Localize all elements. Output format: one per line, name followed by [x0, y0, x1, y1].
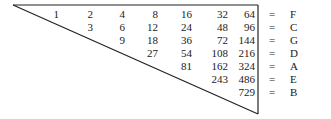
row-label: E [290, 74, 297, 85]
cell-r0-c0: 1 [29, 9, 59, 20]
cell-r3-c3: 27 [128, 48, 158, 59]
cell-r2-c6: 144 [225, 35, 255, 46]
cell-r0-c4: 16 [162, 9, 192, 20]
number-triangle-diagram: 1 2 4 8 16 32 64 = F 3 6 12 24 48 96 = C… [0, 0, 331, 119]
cell-r5-c6: 486 [225, 74, 255, 85]
cell-r0-c1: 2 [63, 9, 93, 20]
equals-sign: = [269, 35, 275, 46]
cell-r2-c5: 72 [198, 35, 228, 46]
cell-r0-c2: 4 [95, 9, 125, 20]
row-label: F [290, 9, 296, 20]
row-label: A [290, 61, 298, 72]
cell-r2-c3: 18 [128, 35, 158, 46]
cell-r1-c6: 96 [225, 22, 255, 33]
equals-sign: = [269, 9, 275, 20]
cell-r1-c1: 3 [63, 22, 93, 33]
cell-r0-c6: 64 [225, 9, 255, 20]
cell-r3-c6: 216 [225, 48, 255, 59]
row-label: G [290, 35, 298, 46]
cell-r2-c4: 36 [162, 35, 192, 46]
cell-r3-c5: 108 [198, 48, 228, 59]
cell-r1-c5: 48 [198, 22, 228, 33]
cell-r1-c4: 24 [162, 22, 192, 33]
equals-sign: = [269, 61, 275, 72]
cell-r4-c4: 81 [162, 61, 192, 72]
row-label: D [290, 48, 298, 59]
equals-sign: = [269, 48, 275, 59]
equals-sign: = [269, 74, 275, 85]
cell-r1-c2: 6 [95, 22, 125, 33]
cell-r4-c6: 324 [225, 61, 255, 72]
cell-r0-c3: 8 [128, 9, 158, 20]
cell-r1-c3: 12 [128, 22, 158, 33]
cell-r4-c5: 162 [198, 61, 228, 72]
cell-r0-c5: 32 [198, 9, 228, 20]
cell-r2-c2: 9 [95, 35, 125, 46]
cell-r6-c6: 729 [225, 87, 255, 98]
equals-sign: = [269, 87, 275, 98]
equals-sign: = [269, 22, 275, 33]
row-label: C [290, 22, 297, 33]
cell-r3-c4: 54 [162, 48, 192, 59]
cell-r5-c5: 243 [198, 74, 228, 85]
row-label: B [290, 87, 297, 98]
